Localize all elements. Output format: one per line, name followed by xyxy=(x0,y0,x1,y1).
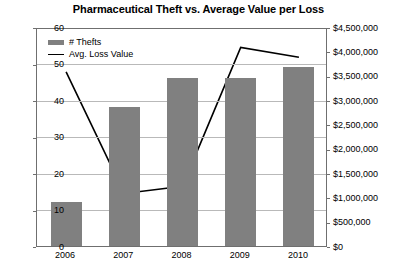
y-axis-right-tick-label: $2,500,000 xyxy=(333,121,397,130)
line-swatch-icon xyxy=(48,54,64,55)
y-axis-right-tick xyxy=(327,150,330,151)
y-axis-right-tick-label: $3,000,000 xyxy=(333,97,397,106)
y-axis-right-tick xyxy=(327,247,330,248)
y-axis-right-tick xyxy=(327,28,330,29)
bar-2010 xyxy=(283,67,314,246)
y-axis-left-tick xyxy=(33,65,36,66)
x-axis-tick-label-2006: 2006 xyxy=(36,250,94,260)
y-axis-right-tick xyxy=(327,52,330,53)
y-axis-left-tick xyxy=(33,138,36,139)
y-axis-right-tick-label: $3,500,000 xyxy=(333,72,397,81)
y-axis-right-tick-label: $0 xyxy=(333,243,397,252)
x-axis-tick-label-2010: 2010 xyxy=(269,250,327,260)
y-axis-right-tick xyxy=(327,174,330,175)
y-axis-left-tick xyxy=(33,247,36,248)
y-axis-right-tick xyxy=(327,125,330,126)
y-axis-right-tick xyxy=(327,198,330,199)
y-axis-right-tick-label: $4,500,000 xyxy=(333,24,397,33)
y-axis-right-tick xyxy=(327,77,330,78)
y-axis-left-tick xyxy=(33,174,36,175)
x-axis-tick-label-2009: 2009 xyxy=(211,250,269,260)
y-axis-left-tick xyxy=(33,211,36,212)
gridline xyxy=(37,64,326,65)
y-axis-right-tick-label: $1,000,000 xyxy=(333,194,397,203)
bar-2009 xyxy=(225,78,256,246)
y-axis-right-tick-label: $2,000,000 xyxy=(333,145,397,154)
y-axis-right-tick-label: $1,500,000 xyxy=(333,170,397,179)
x-axis-tick-label-2008: 2008 xyxy=(153,250,211,260)
legend-label-thefts: # Thefts xyxy=(69,36,101,48)
bar-swatch-icon xyxy=(48,40,64,45)
y-axis-right-tick xyxy=(327,101,330,102)
y-axis-right-tick-label: $500,000 xyxy=(333,218,397,227)
legend-label-avg-loss-value: Avg. Loss Value xyxy=(69,48,133,60)
y-axis-left-tick xyxy=(33,28,36,29)
bar-2007 xyxy=(109,107,140,246)
y-axis-right-tick-label: $4,000,000 xyxy=(333,48,397,57)
y-axis-left-tick xyxy=(33,101,36,102)
chart-title: Pharmaceutical Theft vs. Average Value p… xyxy=(0,3,397,15)
chart-figure: Pharmaceutical Theft vs. Average Value p… xyxy=(0,0,397,275)
chart-legend: # Thefts Avg. Loss Value xyxy=(48,36,133,60)
bar-2008 xyxy=(167,78,198,246)
legend-item-thefts: # Thefts xyxy=(48,36,133,48)
plot-area xyxy=(36,28,327,247)
x-axis-tick-label-2007: 2007 xyxy=(94,250,152,260)
gridline xyxy=(37,28,326,29)
y-axis-right-tick xyxy=(327,223,330,224)
